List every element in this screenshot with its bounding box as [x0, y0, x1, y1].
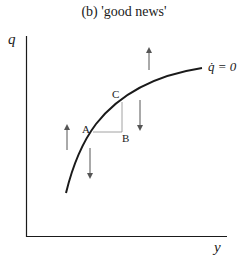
adjustment-guides [93, 102, 122, 132]
axes [26, 36, 227, 237]
q-dot-zero-curve [66, 68, 202, 193]
direction-arrows [67, 50, 149, 176]
diagram-canvas [0, 0, 248, 258]
